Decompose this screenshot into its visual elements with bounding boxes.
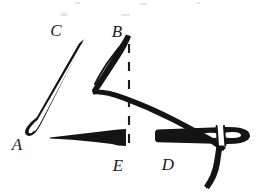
label-a: A (11, 135, 23, 154)
label-c: C (50, 21, 62, 40)
thread-over-block-rim-left (217, 126, 218, 146)
label-d: D (161, 155, 175, 174)
figure-canvas: C B A E D (0, 0, 268, 196)
label-b: B (112, 22, 123, 41)
needle-eye-slit-right (225, 132, 242, 138)
thread-over-block-rim-right (224, 126, 225, 146)
needle-diagram-svg: C B A E D (0, 0, 268, 196)
label-e: E (112, 156, 124, 175)
paper-background (0, 0, 268, 196)
